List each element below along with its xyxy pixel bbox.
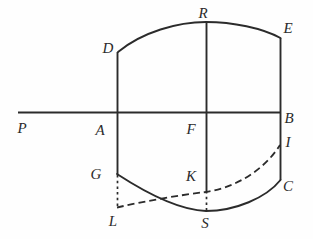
point-label-d: D xyxy=(103,41,114,56)
point-label-c: C xyxy=(283,179,293,194)
point-label-s: S xyxy=(201,216,209,231)
point-label-a: A xyxy=(95,123,104,138)
arc-d-r-e xyxy=(118,22,281,52)
point-label-l: L xyxy=(109,214,117,229)
point-label-i: I xyxy=(286,135,291,150)
geometry-figure: R E D B P A F I G K C L S xyxy=(0,0,313,239)
point-label-p: P xyxy=(17,121,26,136)
point-label-b: B xyxy=(284,111,293,126)
point-label-r: R xyxy=(198,6,207,21)
point-label-f: F xyxy=(186,122,195,137)
figure-canvas xyxy=(0,0,313,239)
point-label-e: E xyxy=(283,21,292,36)
point-label-g: G xyxy=(91,167,102,182)
point-label-k: K xyxy=(186,169,196,184)
